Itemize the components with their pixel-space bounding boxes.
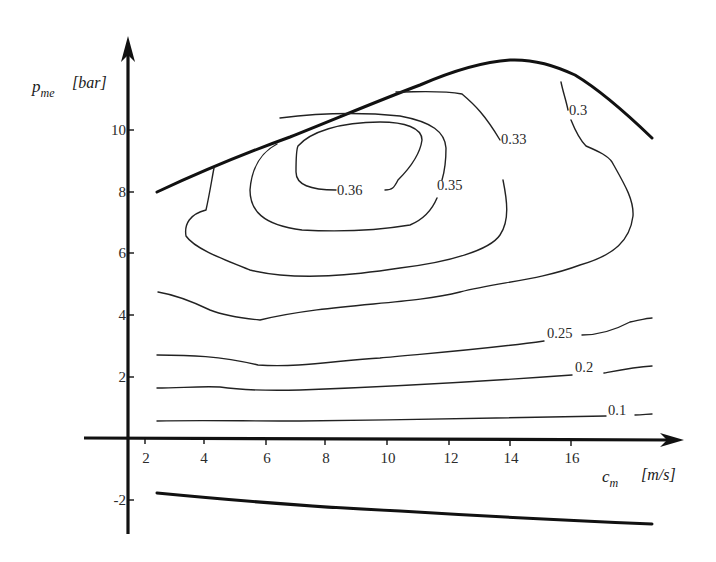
x-tick-label: 6 xyxy=(263,450,271,466)
motoring-line xyxy=(157,493,652,524)
y-tick-label: -2 xyxy=(114,492,127,508)
svg-text:pme: pme xyxy=(31,77,55,100)
y-tick-label: 8 xyxy=(119,184,127,200)
y-tick-labels: 10 8 6 4 2 -2 xyxy=(111,122,127,508)
x-tick-labels: 2 4 6 8 10 12 14 16 xyxy=(142,450,580,466)
x-tick-label: 2 xyxy=(142,450,150,466)
x-tick-label: 14 xyxy=(504,450,520,466)
contour-0.1 xyxy=(157,416,606,421)
contour-label-02: 0.2 xyxy=(575,359,593,375)
y-axis-title: pme [bar] xyxy=(31,74,107,100)
contour-label-03: 0.3 xyxy=(569,102,587,118)
y-tick-label: 10 xyxy=(111,122,126,138)
x-axis-unit: [m/s] xyxy=(641,466,676,483)
x-tick-label: 12 xyxy=(444,450,459,466)
x-tick-label: 10 xyxy=(381,450,396,466)
bsfc-contour-chart: 10 8 6 4 2 -2 2 4 6 8 10 12 14 16 pme [b… xyxy=(0,0,716,562)
contour-0.2-b xyxy=(604,366,652,373)
contour-0.3-b xyxy=(158,120,633,320)
contour-0.25-b xyxy=(582,318,652,335)
contour-0.33-b xyxy=(396,92,500,141)
x-tick-label: 16 xyxy=(565,450,581,466)
y-tick-label: 2 xyxy=(119,369,127,385)
y-axis-unit: [bar] xyxy=(72,74,107,91)
y-tick-label: 6 xyxy=(119,245,127,261)
contour-label-035: 0.35 xyxy=(437,177,462,193)
contour-label-033: 0.33 xyxy=(501,131,526,147)
contour-label-025: 0.25 xyxy=(547,325,572,341)
y-axis-subscript: me xyxy=(41,86,56,100)
y-axis-symbol: p xyxy=(31,77,41,96)
x-axis xyxy=(84,438,672,440)
contour-label-01: 0.1 xyxy=(608,402,626,418)
x-axis-subscript: m xyxy=(610,476,619,490)
x-axis-title: cm [m/s] xyxy=(602,466,676,490)
contour-labels: 0.36 0.35 0.33 0.3 0.25 0.2 0.1 xyxy=(337,102,626,418)
x-tick-label: 8 xyxy=(322,450,330,466)
contour-0.1-b xyxy=(635,414,652,415)
svg-text:cm: cm xyxy=(602,467,619,490)
contour-0.36 xyxy=(296,122,422,190)
contour-0.25 xyxy=(157,341,544,366)
x-tick-label: 4 xyxy=(200,450,208,466)
contour-0.2 xyxy=(157,375,572,390)
y-tick-label: 4 xyxy=(119,307,127,323)
contour-0.3 xyxy=(561,82,568,110)
contour-label-036: 0.36 xyxy=(337,182,362,198)
